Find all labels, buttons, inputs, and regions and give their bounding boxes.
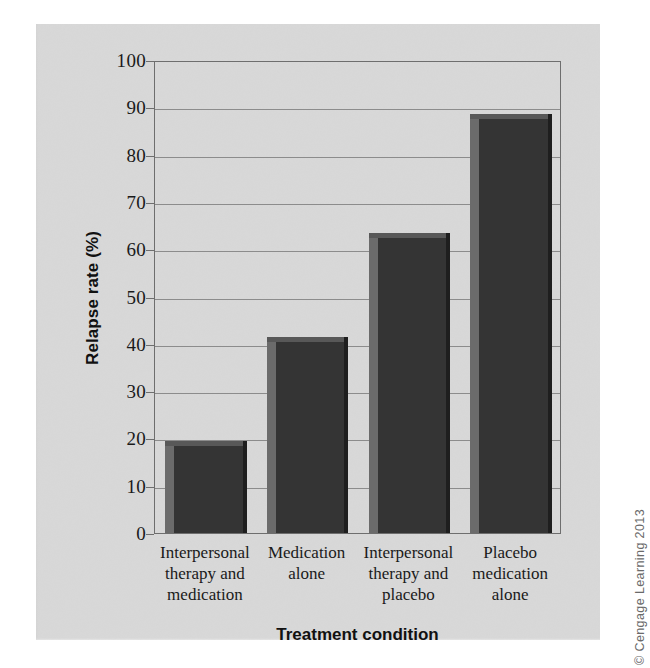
bar-top-edge bbox=[369, 233, 450, 238]
bar-top-edge bbox=[165, 441, 246, 446]
y-axis-tick-label: 10 bbox=[126, 476, 146, 498]
y-axis-tick-mark bbox=[146, 61, 154, 62]
bar-top-edge bbox=[267, 337, 348, 342]
y-axis-tick-label: 50 bbox=[126, 287, 146, 309]
bar bbox=[267, 337, 348, 533]
x-axis-category-label-line: Interpersonal bbox=[360, 542, 458, 563]
copyright-credit-text: © Cengage Learning 2013 bbox=[633, 509, 647, 665]
x-axis-category-label-line: alone bbox=[258, 563, 356, 584]
x-axis-category-label-line: Medication bbox=[258, 542, 356, 563]
bar-left-edge bbox=[470, 114, 479, 533]
bar-top-edge bbox=[470, 114, 551, 119]
y-axis-tick-labels: 0102030405060708090100 bbox=[88, 61, 146, 534]
bar-left-edge bbox=[267, 337, 276, 533]
bar-left-edge bbox=[369, 233, 378, 533]
x-axis-category-label-line: placebo bbox=[360, 584, 458, 605]
bar bbox=[165, 441, 246, 533]
bar-right-edge bbox=[446, 233, 450, 533]
y-axis-tick-mark bbox=[146, 534, 154, 535]
bar bbox=[369, 233, 450, 533]
plot-area bbox=[154, 61, 561, 534]
bar-face bbox=[267, 337, 348, 533]
y-axis-tick-mark bbox=[146, 250, 154, 251]
bar-face bbox=[165, 441, 246, 533]
x-axis-category-label-line: medication bbox=[461, 563, 559, 584]
y-axis-tick-label: 20 bbox=[126, 428, 146, 450]
y-axis-tick-label: 70 bbox=[126, 192, 146, 214]
y-axis-tick-label: 100 bbox=[117, 50, 146, 72]
gridline bbox=[155, 109, 560, 110]
y-axis-tick-label: 40 bbox=[126, 334, 146, 356]
x-axis-category-label-line: Placebo bbox=[461, 542, 559, 563]
x-axis-category-label: Interpersonaltherapy andplacebo bbox=[358, 542, 460, 622]
x-axis-category-label: Medicationalone bbox=[256, 542, 358, 622]
bar-right-edge bbox=[344, 337, 348, 533]
y-axis-tick-label: 0 bbox=[136, 523, 146, 545]
x-axis-category-label-line: therapy and bbox=[156, 563, 254, 584]
x-axis-category-label: Interpersonaltherapy andmedication bbox=[154, 542, 256, 622]
y-axis-tick-mark bbox=[146, 392, 154, 393]
x-axis-category-label: Placebomedicationalone bbox=[459, 542, 561, 622]
x-axis-category-label-line: therapy and bbox=[360, 563, 458, 584]
y-axis-tick-label: 30 bbox=[126, 381, 146, 403]
bar-left-edge bbox=[165, 441, 174, 533]
x-axis-category-label-line: alone bbox=[461, 584, 559, 605]
x-axis-category-labels: Interpersonaltherapy andmedicationMedica… bbox=[154, 542, 561, 622]
y-axis-tick-mark bbox=[146, 203, 154, 204]
x-axis-category-label-line: medication bbox=[156, 584, 254, 605]
bar-right-edge bbox=[243, 441, 247, 533]
y-axis-tick-mark bbox=[146, 439, 154, 440]
y-axis-tick-label: 80 bbox=[126, 145, 146, 167]
y-axis-tick-mark bbox=[146, 156, 154, 157]
bar-face bbox=[369, 233, 450, 533]
y-axis-tick-mark bbox=[146, 487, 154, 488]
y-axis-tick-mark bbox=[146, 298, 154, 299]
y-axis-tick-label: 90 bbox=[126, 97, 146, 119]
plot-inner bbox=[155, 62, 560, 533]
x-axis-category-label-line: Interpersonal bbox=[156, 542, 254, 563]
bar bbox=[470, 114, 551, 533]
y-axis-tick-mark bbox=[146, 345, 154, 346]
copyright-credit: © Cengage Learning 2013 bbox=[630, 502, 650, 668]
bar-right-edge bbox=[548, 114, 552, 533]
figure-panel: Relapse rate (%) 0102030405060708090100 … bbox=[36, 24, 600, 640]
bar-face bbox=[470, 114, 551, 533]
x-axis-title: Treatment condition bbox=[154, 625, 561, 645]
y-axis-tick-mark bbox=[146, 108, 154, 109]
y-axis-tick-label: 60 bbox=[126, 239, 146, 261]
